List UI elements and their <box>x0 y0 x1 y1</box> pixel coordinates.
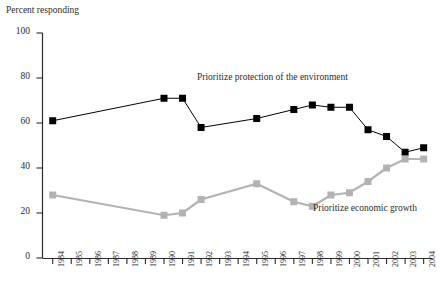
data-point-marker <box>253 115 260 122</box>
data-point-marker <box>402 156 409 163</box>
data-point-marker <box>49 192 56 199</box>
data-point-marker <box>290 198 297 205</box>
data-point-marker <box>160 212 167 219</box>
data-point-marker <box>365 178 372 185</box>
data-point-marker <box>327 104 334 111</box>
y-tick-marks <box>37 33 43 258</box>
x-tick-label: 1992 <box>205 251 214 267</box>
data-point-marker <box>327 192 334 199</box>
data-point-marker <box>365 126 372 133</box>
x-tick-label: 1990 <box>168 251 177 267</box>
x-tick-marks <box>53 258 424 264</box>
x-tick-label: 1984 <box>57 251 66 267</box>
data-point-marker <box>420 144 427 151</box>
data-point-marker <box>383 165 390 172</box>
data-point-marker <box>420 156 427 163</box>
x-tick-label: 1996 <box>279 251 288 267</box>
data-point-marker <box>253 180 260 187</box>
x-tick-label: 1999 <box>335 251 344 267</box>
data-point-marker <box>179 95 186 102</box>
x-tick-label: 1993 <box>224 251 233 267</box>
x-tick-label: 2000 <box>353 251 362 267</box>
series-line-environment <box>53 98 424 152</box>
y-tick-label: 40 <box>8 161 30 171</box>
data-point-marker <box>346 189 353 196</box>
x-tick-label: 1997 <box>298 251 307 267</box>
y-tick-label: 20 <box>8 206 30 216</box>
axes-group <box>43 33 433 259</box>
data-point-marker <box>290 106 297 113</box>
chart-container: Percent responding 020406080100 19841985… <box>0 0 441 301</box>
data-point-marker <box>383 133 390 140</box>
y-tick-label: 80 <box>8 71 30 81</box>
x-tick-label: 1989 <box>149 251 158 267</box>
y-tick-label: 0 <box>8 251 30 261</box>
x-tick-label: 1994 <box>242 251 251 267</box>
data-point-marker <box>179 210 186 217</box>
data-point-marker <box>160 95 167 102</box>
data-point-marker <box>198 196 205 203</box>
x-tick-label: 2002 <box>391 251 400 267</box>
x-tick-label: 2001 <box>372 251 381 267</box>
y-tick-label: 100 <box>8 26 30 36</box>
x-tick-label: 1991 <box>187 251 196 267</box>
data-point-marker <box>402 149 409 156</box>
data-point-marker <box>309 102 316 109</box>
data-point-marker <box>49 117 56 124</box>
data-point-marker <box>198 124 205 131</box>
x-tick-label: 2004 <box>428 251 437 267</box>
series-label-economy: Prioritize economic growth <box>313 203 417 213</box>
x-tick-label: 1987 <box>112 251 121 267</box>
x-tick-label: 1988 <box>131 251 140 267</box>
series-label-environment: Prioritize protection of the environment <box>197 72 348 82</box>
data-point-marker <box>346 104 353 111</box>
x-tick-label: 1998 <box>316 251 325 267</box>
x-tick-label: 1985 <box>75 251 84 267</box>
y-tick-label: 60 <box>8 116 30 126</box>
x-tick-label: 1986 <box>94 251 103 267</box>
x-tick-label: 2003 <box>409 251 418 267</box>
x-tick-label: 1995 <box>261 251 270 267</box>
data-series-group <box>49 95 427 219</box>
